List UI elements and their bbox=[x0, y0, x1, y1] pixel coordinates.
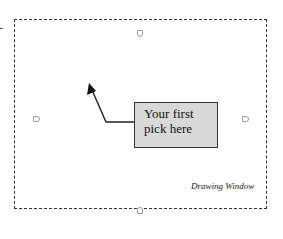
margin-tick bbox=[0, 28, 3, 29]
handle-top-icon bbox=[137, 30, 143, 37]
handle-left-icon bbox=[33, 116, 40, 122]
diagram-canvas: Your first pick here Drawing Window bbox=[0, 0, 283, 239]
drawing-window-caption: Drawing Window bbox=[191, 181, 254, 191]
handle-bottom-icon bbox=[137, 207, 143, 214]
callout-line-1: Your first bbox=[144, 106, 217, 121]
callout-line-2: pick here bbox=[144, 121, 217, 136]
handle-right-icon bbox=[242, 116, 249, 122]
callout-box: Your first pick here bbox=[134, 102, 218, 148]
